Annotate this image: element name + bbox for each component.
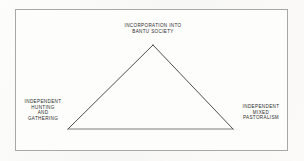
vertex-label-incorporation: INCORPORATION INTO BANTU SOCIETY bbox=[103, 23, 203, 34]
vertex-label-hunting-gathering: INDEPENDENT HUNTING AND GATHERING bbox=[10, 99, 76, 121]
edge-incorporation-to-pastoralism bbox=[153, 45, 233, 129]
edge-hunting-to-incorporation bbox=[68, 45, 153, 129]
triangle-diagram: INCORPORATION INTO BANTU SOCIETY INDEPEN… bbox=[0, 0, 304, 161]
vertex-label-mixed-pastoralism: INDEPENDENT MIXED PASTORALISM bbox=[230, 104, 292, 121]
figure-screenshot: INCORPORATION INTO BANTU SOCIETY INDEPEN… bbox=[0, 0, 304, 161]
